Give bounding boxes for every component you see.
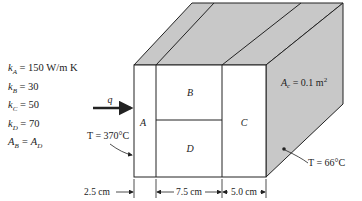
cold-side-temp-label: T = 66°C [308,157,346,168]
hot-side-leader [110,144,132,155]
composite-wall-diagram: A B C D q T = 370°C Ac = 0.1 m2 T = 66°C… [0,0,362,201]
hot-side-temp-label: T = 370°C [87,130,130,141]
region-b-label: B [187,87,193,98]
region-d-label: D [185,143,194,154]
region-c-label: C [241,117,248,128]
cold-side-leader [285,150,308,163]
dim-label-c: 5.0 cm [231,187,257,197]
heat-flow-label: q [108,94,113,105]
region-a-label: A [139,117,147,128]
dim-label-a: 2.5 cm [84,187,110,197]
dim-label-b: 7.5 cm [176,187,202,197]
